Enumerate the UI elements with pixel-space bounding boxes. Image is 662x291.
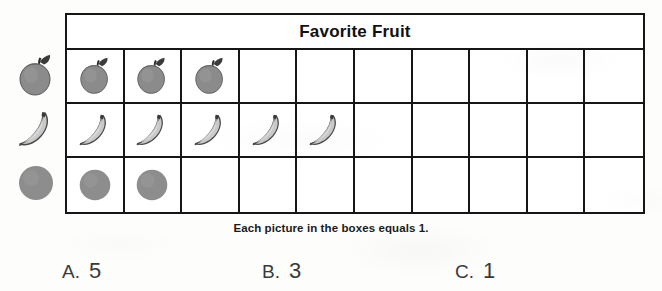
pictograph-cell-banana-empty [585,104,643,156]
answer-options: A. 5 B. 3 C. 1 [0,258,662,291]
pictograph-cell-banana-filled [182,104,240,156]
table-row-apple [67,50,643,104]
pictograph-cell-orange-empty [413,158,471,212]
banana-icon [191,111,229,149]
apple-icon [77,56,113,96]
pictograph-cell-orange-filled [67,158,125,212]
chart-caption: Each picture in the boxes equals 1. [0,222,662,234]
chart-title-row: Favorite Fruit [67,15,643,50]
pictograph-cell-apple-empty [297,50,355,102]
orange-icon [77,167,113,203]
banana-icon [133,111,171,149]
pictograph-cell-orange-empty [528,158,586,212]
answer-option-b-letter: B. [262,261,280,283]
pictograph-cell-orange-empty [182,158,240,212]
answer-option-c-value: 1 [483,258,495,284]
table-row-banana [67,104,643,158]
orange-icon [16,163,56,203]
orange-icon [134,167,170,203]
row-label-column [8,48,64,210]
pictograph-cell-apple-empty [240,50,298,102]
pictograph-cell-banana-empty [528,104,586,156]
table-row-orange [67,158,643,212]
pictograph-cell-apple-empty [355,50,413,102]
apple-icon [134,56,170,96]
pictograph-cell-apple-filled [67,50,125,102]
answer-option-c-letter: C. [455,261,474,283]
pictograph-cell-apple-empty [528,50,586,102]
pictograph-cell-banana-filled [125,104,183,156]
pictograph-cell-banana-empty [355,104,413,156]
pictograph-cell-orange-empty [240,158,298,212]
banana-icon [15,108,57,150]
pictograph-cell-banana-filled [297,104,355,156]
pictograph-cell-apple-empty [470,50,528,102]
page-title: Favorite Fruit [299,22,410,42]
pictograph-cell-banana-filled [240,104,298,156]
apple-icon [16,53,56,98]
apple-icon [192,56,228,96]
pictograph-cell-orange-empty [470,158,528,212]
answer-option-c[interactable]: C. 1 [455,258,495,284]
banana-icon [249,111,287,149]
pictograph-grid: Favorite Fruit [65,13,645,214]
pictograph-cell-apple-filled [182,50,240,102]
pictograph-cell-apple-filled [125,50,183,102]
pictograph-cell-banana-empty [413,104,471,156]
pictograph-cell-orange-empty [585,158,643,212]
banana-icon [306,111,344,149]
pictograph-cell-orange-empty [297,158,355,212]
pictograph-cell-banana-filled [67,104,125,156]
pictograph-cell-orange-filled [125,158,183,212]
row-label-apple [8,48,64,102]
answer-option-a[interactable]: A. 5 [62,258,101,284]
pictograph-cell-orange-empty [355,158,413,212]
pictograph-cell-banana-empty [470,104,528,156]
row-label-orange [8,156,64,210]
answer-option-b[interactable]: B. 3 [262,258,301,284]
row-label-banana [8,102,64,156]
pictograph-cell-apple-empty [585,50,643,102]
pictograph-cell-apple-empty [413,50,471,102]
banana-icon [76,111,114,149]
answer-option-a-value: 5 [89,258,101,284]
answer-option-b-value: 3 [289,258,301,284]
answer-option-a-letter: A. [62,261,80,283]
